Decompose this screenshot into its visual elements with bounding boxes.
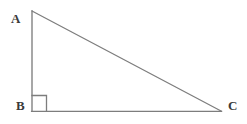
vertex-label-c: C	[228, 99, 237, 112]
right-angle-square-icon	[32, 96, 47, 112]
right-angle-marker	[32, 96, 47, 112]
hypotenuse-ac-line	[32, 11, 222, 111]
right-triangle-diagram: A B C	[0, 0, 247, 124]
triangle-outline	[32, 11, 222, 111]
triangle-svg	[0, 0, 247, 124]
vertex-label-a: A	[11, 12, 20, 25]
vertex-label-b: B	[16, 99, 25, 112]
